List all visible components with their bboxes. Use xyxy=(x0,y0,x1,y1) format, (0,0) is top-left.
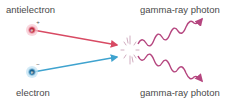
photon-bottom-label: gamma-ray photon xyxy=(140,88,220,98)
svg-text:+: + xyxy=(36,19,40,25)
antielectron-label: antielectron xyxy=(6,5,55,15)
annihilation-burst-icon xyxy=(121,36,139,64)
electron-label: electron xyxy=(16,88,50,98)
gamma-photon-top-wave xyxy=(138,19,202,46)
photon-top-label: gamma-ray photon xyxy=(140,5,220,15)
svg-text:e: e xyxy=(31,27,34,33)
svg-text:−: − xyxy=(36,61,40,67)
electron-particle-icon: e − xyxy=(26,61,40,78)
antielectron-track-arrow xyxy=(33,30,117,45)
svg-text:e: e xyxy=(31,69,34,75)
gamma-photon-bottom-wave xyxy=(138,54,202,81)
antielectron-particle-icon: e + xyxy=(26,19,40,36)
electron-track-arrow xyxy=(33,57,117,72)
